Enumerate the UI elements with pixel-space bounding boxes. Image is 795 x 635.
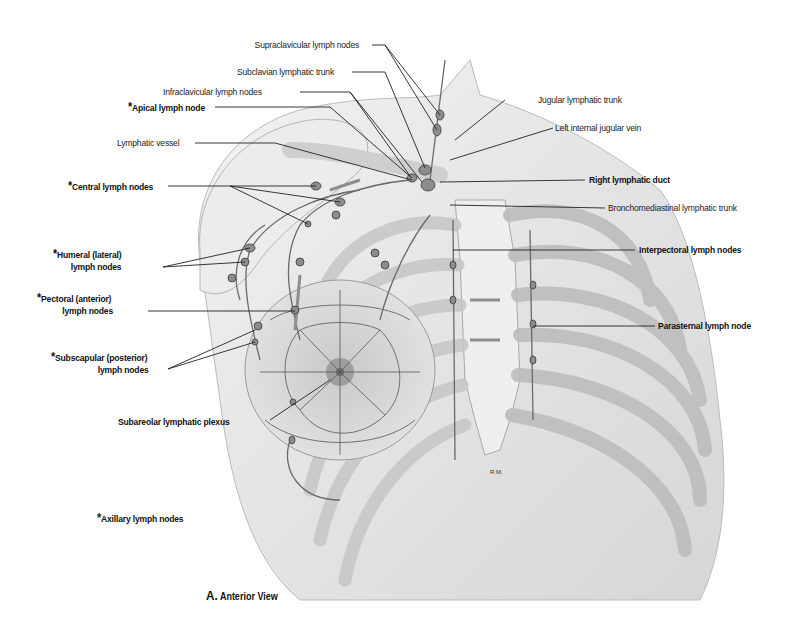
label-apical: *Apical lymph node bbox=[128, 101, 205, 114]
legend-axillary-text: Axillary lymph nodes bbox=[101, 513, 183, 524]
label-subscapular-line1: Subscapular (posterior) bbox=[55, 352, 147, 363]
anatomy-figure: R.M. Supraclavicular lymph nodes Subclav… bbox=[0, 0, 795, 635]
label-supraclavicular: Supraclavicular lymph nodes bbox=[255, 39, 359, 51]
label-humeral-line2: lymph nodes bbox=[54, 261, 121, 272]
label-subscapular: *Subscapular (posterior)lymph nodes bbox=[51, 351, 149, 376]
label-subscapular-line2: lymph nodes bbox=[51, 364, 149, 375]
label-apical-text: Apical lymph node bbox=[132, 102, 205, 113]
label-right-lymphatic-duct: Right lymphatic duct bbox=[589, 174, 670, 186]
thorax-illustration: R.M. bbox=[0, 0, 795, 635]
label-lymphatic-vessel: Lymphatic vessel bbox=[117, 137, 179, 149]
legend-axillary: *Axillary lymph nodes bbox=[97, 512, 183, 525]
label-interpectoral: Interpectoral lymph nodes bbox=[639, 244, 741, 256]
caption-letter: A. bbox=[206, 588, 218, 603]
caption-text: Anterior View bbox=[220, 591, 278, 602]
label-pectoral-line2: lymph nodes bbox=[37, 305, 113, 316]
label-jugular-trunk: Jugular lymphatic trunk bbox=[538, 94, 622, 106]
label-central: *Central lymph nodes bbox=[68, 180, 153, 193]
label-pectoral-line1: Pectoral (anterior) bbox=[41, 293, 111, 304]
label-parasternal: Parasternal lymph node bbox=[658, 320, 751, 332]
figure-caption: A. Anterior View bbox=[206, 588, 278, 603]
label-subclavian-trunk: Subclavian lymphatic trunk bbox=[237, 66, 334, 78]
label-pectoral: *Pectoral (anterior)lymph nodes bbox=[37, 292, 113, 317]
label-infraclavicular: Infraclavicular lymph nodes bbox=[163, 86, 262, 98]
label-central-text: Central lymph nodes bbox=[72, 181, 153, 192]
label-subareolar: Subareolar lymphatic plexus bbox=[118, 416, 230, 428]
label-humeral-line1: Humeral (lateral) bbox=[57, 249, 121, 260]
label-left-ijv: Left internal jugular vein bbox=[555, 122, 641, 134]
artist-initials: R.M. bbox=[490, 469, 503, 475]
label-bronchomediastinal: Bronchomediastinal lymphatic trunk bbox=[608, 202, 737, 214]
label-humeral: *Humeral (lateral)lymph nodes bbox=[53, 248, 121, 273]
